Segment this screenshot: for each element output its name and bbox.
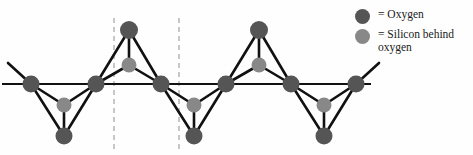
silicon-atom-1 (122, 58, 137, 73)
chain-oxygen-atom-3 (218, 76, 235, 93)
apex-oxygen-atom-4 (316, 128, 333, 145)
chain-oxygen-atom-4 (283, 76, 300, 93)
chain-oxygen-atom-5 (348, 76, 365, 93)
legend-row-silicon: = Silicon behind oxygen (355, 28, 473, 54)
legend-label-oxygen: = Oxygen (378, 8, 424, 21)
chain-oxygen-atom-0 (23, 76, 40, 93)
silicon-atom-2 (187, 98, 202, 113)
legend-label-silicon: = Silicon behind oxygen (378, 28, 454, 54)
edge-bond-lines (8, 63, 379, 84)
figure-root: = Oxygen = Silicon behind oxygen (0, 0, 473, 155)
chain-oxygen-atom-1 (88, 76, 105, 93)
apex-oxygen-atom-3 (250, 21, 268, 39)
silicon-atom-4 (317, 98, 332, 113)
apex-oxygen-atom-0 (56, 128, 73, 145)
apex-oxygen-atom-1 (120, 21, 138, 39)
silicon-swatch-icon (355, 29, 370, 44)
legend-row-oxygen: = Oxygen (355, 8, 473, 24)
silicon-atom-0 (57, 98, 72, 113)
apex-oxygen-atom-2 (186, 128, 203, 145)
silicon-atom-3 (252, 58, 267, 73)
legend: = Oxygen = Silicon behind oxygen (355, 8, 473, 58)
oxygen-swatch-icon (355, 9, 370, 24)
chain-oxygen-atom-2 (153, 76, 170, 93)
